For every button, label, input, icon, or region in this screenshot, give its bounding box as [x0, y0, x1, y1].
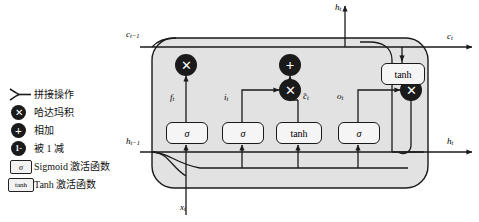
legend-item-sigmoid: σ Sigmoid 激活函数 [8, 158, 138, 175]
legend: 拼接操作 ✕ 哈达玛积 + 相加 1- 被 1 [8, 86, 138, 194]
hidden-state-out-top-label: ht [335, 3, 341, 13]
data-input-label: xt [180, 203, 186, 213]
plus-glyph: + [15, 125, 22, 137]
input-sigmoid-box: σ [222, 122, 264, 144]
output-gate-subscript: t [342, 94, 344, 101]
input-gate-subscript: t [227, 95, 229, 102]
hidden-state-out-right-label: ht [447, 137, 453, 147]
plus-glyph: + [286, 58, 295, 73]
legend-label-add: 相加 [34, 125, 54, 136]
state-add-node: + [279, 54, 301, 76]
cell-state-out-subscript: t [451, 34, 453, 41]
concat-fork-icon [8, 86, 34, 103]
lstm-diagram-figure: ✕ + ✕ ✕ σ σ tanh σ tanh ft it ̃ct ot ct−… [0, 0, 479, 222]
legend-item-hadamard: ✕ 哈达玛积 [8, 104, 138, 121]
sigmoid-glyph: σ [357, 128, 362, 139]
hidden-state-out-top-subscript: t [340, 5, 342, 12]
one-minus-glyph: 1- [15, 145, 22, 153]
tanh-glyph: tanh [290, 128, 307, 139]
candidate-multiply-node: ✕ [279, 79, 301, 101]
hadamard-product-icon: ✕ [8, 104, 34, 121]
tanh-box-icon: tanh [8, 176, 34, 193]
legend-label-concat: 拼接操作 [34, 89, 74, 100]
output-sigmoid-box: σ [338, 122, 380, 144]
legend-label-hadamard: 哈达玛积 [34, 107, 74, 118]
hidden-state-out-right-subscript: t [452, 139, 454, 146]
multiply-glyph: ✕ [285, 84, 296, 97]
state-tanh-box: tanh [381, 63, 425, 85]
plus-circle-icon: + [8, 122, 34, 139]
cell-state-out-label: ct [447, 32, 453, 42]
cell-state-in-subscript: t−1 [130, 32, 139, 39]
data-input-subscript: t [184, 205, 186, 212]
hadamard-glyph: ✕ [15, 108, 23, 118]
multiply-glyph: ✕ [181, 59, 192, 72]
output-gate-label: ot [337, 92, 343, 102]
legend-item-concat: 拼接操作 [8, 86, 138, 103]
sigmoid-glyph: σ [19, 163, 23, 172]
forget-gate-subscript: t [173, 95, 175, 102]
multiply-glyph: ✕ [406, 84, 417, 97]
candidate-subscript: t [307, 94, 309, 101]
forget-multiply-node: ✕ [175, 54, 197, 76]
legend-item-one-minus: 1- 被 1 减 [8, 140, 138, 157]
tanh-glyph: tanh [394, 69, 411, 80]
forget-sigmoid-box: σ [166, 122, 208, 144]
cell-state-in-label: ct−1 [126, 30, 139, 40]
tanh-glyph: tanh [15, 181, 27, 189]
legend-item-add: + 相加 [8, 122, 138, 139]
legend-label-one-minus: 被 1 减 [34, 143, 64, 154]
candidate-tanh-box: tanh [276, 122, 322, 144]
one-minus-icon: 1- [8, 140, 34, 157]
forget-gate-label: ft [170, 93, 174, 103]
legend-item-tanh: tanh Tanh 激活函数 [8, 176, 138, 193]
sigmoid-glyph: σ [185, 128, 190, 139]
candidate-label: ̃ct [303, 92, 309, 102]
sigmoid-glyph: σ [241, 128, 246, 139]
input-gate-label: it [224, 93, 228, 103]
legend-label-tanh: Tanh 激活函数 [34, 179, 96, 190]
sigmoid-box-icon: σ [8, 158, 34, 175]
legend-label-sigmoid: Sigmoid 激活函数 [34, 161, 110, 172]
